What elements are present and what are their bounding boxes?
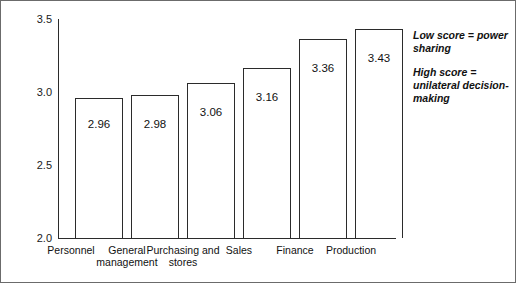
y-tick-label: 3.0 [8,87,52,98]
x-axis-line [58,238,396,239]
bar [131,95,179,238]
annotation-low-score: Low score = power sharing [413,29,509,55]
bar-value-label: 3.16 [239,91,295,103]
bar-value-label: 3.43 [351,52,407,64]
y-axis-tick-labels: 2.0 2.5 3.0 3.5 [1,1,52,283]
bar-group: 3.06 [183,19,239,238]
x-category-label: Production [314,244,388,256]
bar-value-label: 2.98 [127,118,183,130]
bar-group: 3.36 [295,19,351,238]
plot-area: 2.96 2.98 3.06 3.16 3.36 3.43 [58,19,396,238]
y-tick-label: 2.0 [8,233,52,244]
chart-container: 2.0 2.5 3.0 3.5 2.96 2.98 3.06 3.16 3.36 [0,0,516,283]
bar-value-label: 2.96 [71,118,127,130]
bar-group: 2.98 [127,19,183,238]
annotation-block: Low score = power sharing High score = u… [413,29,509,105]
bar-value-label: 3.36 [295,62,351,74]
bar-group: 3.16 [239,19,295,238]
y-tick-label: 2.5 [8,160,52,171]
bar-group: 2.96 [71,19,127,238]
bar-group: 3.43 [351,19,407,238]
y-tick-label: 3.5 [8,14,52,25]
annotation-high-score: High score = unilateral decision-making [413,66,509,105]
bar-value-label: 3.06 [183,106,239,118]
